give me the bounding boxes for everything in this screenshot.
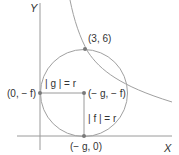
point-x-tangent: [82, 134, 86, 138]
point-y-tangent: [38, 91, 42, 95]
circle-tangent-diagram: Y X (3, 6) (0, − f) (− g, − f) (− g, 0) …: [0, 0, 179, 155]
label-vertical-radius: | f | = r: [88, 113, 117, 124]
y-axis-label: Y: [30, 2, 38, 14]
curve: [70, 0, 172, 102]
point-center: [82, 91, 86, 95]
label-3-6: (3, 6): [88, 33, 111, 44]
point-3-6: [83, 47, 87, 51]
label-x-tangent: (− g, 0): [70, 141, 102, 152]
x-axis-label: X: [163, 142, 172, 154]
label-y-tangent: (0, − f): [7, 88, 36, 99]
label-center: (− g, − f): [88, 88, 126, 99]
label-horizontal-radius: | g | = r: [45, 78, 77, 89]
